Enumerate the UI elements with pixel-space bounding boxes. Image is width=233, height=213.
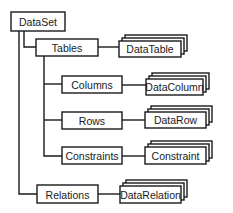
stack-datarelation: DataRelation <box>120 180 187 203</box>
node-dataset-label: DataSet <box>19 16 57 28</box>
node-tables-label: Tables <box>52 42 82 54</box>
node-dataset: DataSet <box>11 12 65 31</box>
node-relations-label: Relations <box>46 189 90 201</box>
stack-datacolumn: DataColumn <box>145 73 209 95</box>
stack-datatable: DataTable <box>119 35 187 57</box>
node-columns-label: Columns <box>71 79 112 91</box>
node-rows: Rows <box>62 112 122 129</box>
node-datatable-label: DataTable <box>126 43 173 55</box>
node-relations: Relations <box>37 185 98 203</box>
node-constraints-label: Constraints <box>65 150 118 162</box>
node-tables: Tables <box>36 39 98 56</box>
node-datarow-label: DataRow <box>154 114 198 126</box>
node-datarelation-label: DataRelation <box>120 189 181 201</box>
node-datacolumn-label: DataColumn <box>145 81 204 93</box>
connector-tables-constraints <box>44 56 62 156</box>
connector-dataset-tables <box>24 31 36 47</box>
dataset-object-model-diagram: DataSet Tables Columns Rows Constraints … <box>0 0 233 213</box>
node-constraint-label: Constraint <box>152 150 200 162</box>
node-columns: Columns <box>62 76 122 93</box>
stack-constraint: Constraint <box>145 141 212 164</box>
node-constraints: Constraints <box>62 147 122 164</box>
stack-datarow: DataRow <box>145 106 212 128</box>
connector-dataset-relations <box>19 31 37 194</box>
node-rows-label: Rows <box>79 115 105 127</box>
